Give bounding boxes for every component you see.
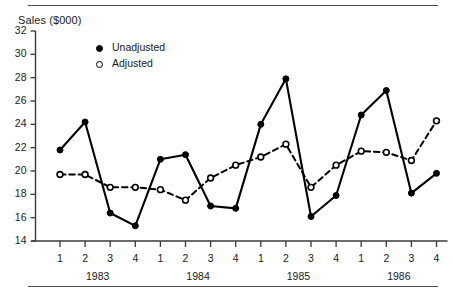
x-tick-label: 2 <box>177 252 195 264</box>
x-tick-label: 1 <box>352 252 370 264</box>
y-tick-label: 26 <box>5 94 27 106</box>
x-group-label: 1986 <box>376 270 422 282</box>
y-tick-label: 22 <box>5 141 27 153</box>
x-tick-label: 4 <box>227 252 245 264</box>
x-tick-label: 1 <box>151 252 169 264</box>
y-tick-label: 32 <box>5 24 27 36</box>
x-tick-label: 2 <box>76 252 94 264</box>
y-tick-label: 14 <box>5 234 27 246</box>
sales-chart-figure: Sales ($000) Unadjusted Adjusted 1416182… <box>0 0 455 296</box>
x-tick-label: 3 <box>402 252 420 264</box>
y-tick-label: 24 <box>5 117 27 129</box>
y-tick-label: 16 <box>5 211 27 223</box>
x-tick-label: 3 <box>101 252 119 264</box>
x-tick-label: 3 <box>202 252 220 264</box>
x-tick-label: 4 <box>126 252 144 264</box>
x-group-label: 1985 <box>275 270 321 282</box>
x-tick-label: 1 <box>51 252 69 264</box>
y-tick-label: 28 <box>5 71 27 83</box>
y-tick-label: 30 <box>5 47 27 59</box>
x-tick-label: 2 <box>377 252 395 264</box>
x-tick-label: 1 <box>252 252 270 264</box>
x-tick-label: 2 <box>277 252 295 264</box>
x-group-label: 1983 <box>75 270 121 282</box>
x-tick-label: 4 <box>428 252 446 264</box>
x-group-label: 1984 <box>175 270 221 282</box>
y-tick-label: 20 <box>5 164 27 176</box>
y-tick-label: 18 <box>5 187 27 199</box>
x-tick-label: 4 <box>327 252 345 264</box>
x-tick-label: 3 <box>302 252 320 264</box>
